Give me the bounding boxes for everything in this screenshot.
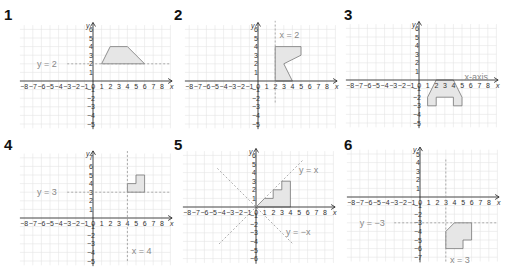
x-tick-label: 4 (126, 83, 130, 90)
x-tick-label: 2 (108, 220, 112, 227)
x-tick-label: 1 (426, 82, 430, 89)
y-tick-label: −1 (250, 212, 258, 219)
y-tick-label: −5 (87, 121, 95, 128)
x-tick-label: 8 (160, 220, 164, 227)
x-tick-label: 7 (478, 199, 482, 206)
y-tick-label: 6 (89, 163, 93, 170)
x-tick-label: −7 (194, 83, 202, 90)
y-tick-label: −2 (87, 232, 95, 239)
x-tick-label: −2 (398, 82, 406, 89)
x-axis-label: x (334, 83, 339, 90)
mirror-line-label: y = x (299, 165, 319, 175)
y-tick-label: −2 (413, 94, 421, 101)
x-tick-label: 7 (151, 220, 155, 227)
x-tick-label: 8 (323, 209, 327, 216)
x-tick-label: −8 (185, 83, 193, 90)
y-tick-label: 1 (89, 206, 93, 213)
y-tick-label: −2 (252, 95, 260, 102)
coordinate-graph-1: 1xy−8−7−6−5−4−3−2−1012345678−5−4−3−2−112… (4, 6, 174, 129)
x-tick-label: 2 (108, 83, 112, 90)
y-tick-label: 4 (254, 43, 258, 50)
y-tick-label: −5 (252, 121, 260, 128)
x-tick-label: −6 (363, 82, 371, 89)
x-tick-label: 8 (487, 199, 491, 206)
y-tick-label: −4 (252, 112, 260, 119)
x-tick-label: 3 (280, 209, 284, 216)
y-tick-label: −2 (87, 95, 95, 102)
x-tick-label: 7 (151, 83, 155, 90)
x-tick-label: −6 (202, 83, 210, 90)
x-tick-label: −7 (29, 83, 37, 90)
shape (127, 175, 144, 192)
x-tick-label: 7 (477, 82, 481, 89)
mirror-line-label: x-axis (465, 72, 489, 82)
x-tick-label: −7 (192, 209, 200, 216)
x-tick-label: 4 (291, 83, 295, 90)
graph-number: 5 (174, 136, 182, 153)
y-tick-label: −1 (252, 86, 260, 93)
y-tick-label: 3 (416, 168, 420, 175)
mirror-line-label: y = 2 (37, 59, 57, 69)
x-tick-label: 3 (443, 82, 447, 89)
y-tick-label: 6 (254, 26, 258, 33)
x-tick-label: 4 (452, 82, 456, 89)
y-tick-label: 1 (252, 195, 256, 202)
x-tick-label: 8 (160, 83, 164, 90)
x-tick-label: −5 (46, 83, 54, 90)
x-tick-label: −5 (211, 83, 219, 90)
y-tick-label: 1 (415, 68, 419, 75)
x-tick-label: 3 (282, 83, 286, 90)
x-tick-label: −6 (200, 209, 208, 216)
x-axis-label: x (169, 220, 174, 227)
x-tick-label: −4 (55, 220, 63, 227)
y-tick-label: −3 (250, 229, 258, 236)
x-tick-label: −4 (381, 82, 389, 89)
mirror-line-label: y = −x (286, 227, 311, 237)
x-tick-label: −6 (364, 199, 372, 206)
x-tick-label: 4 (453, 199, 457, 206)
x-axis-label: x (332, 209, 337, 216)
x-tick-label: 6 (306, 209, 310, 216)
x-tick-label: −6 (37, 83, 45, 90)
graph-number: 2 (174, 6, 182, 23)
y-tick-label: 5 (89, 35, 93, 42)
y-tick-label: 4 (416, 159, 420, 166)
y-tick-label: −1 (87, 86, 95, 93)
y-tick-label: 3 (89, 52, 93, 59)
graph-number: 4 (4, 136, 13, 153)
x-tick-label: −5 (209, 209, 217, 216)
x-tick-label: 2 (271, 209, 275, 216)
x-tick-label: −6 (37, 220, 45, 227)
y-tick-label: −4 (250, 238, 258, 245)
y-tick-label: 5 (252, 161, 256, 168)
y-tick-label: −6 (250, 255, 258, 262)
x-tick-label: −8 (346, 82, 354, 89)
x-tick-label: 3 (117, 83, 121, 90)
x-tick-label: −3 (228, 83, 236, 90)
x-tick-label: −2 (235, 209, 243, 216)
x-tick-label: −5 (372, 82, 380, 89)
x-tick-label: −2 (72, 83, 80, 90)
x-tick-label: 4 (289, 209, 293, 216)
x-tick-label: 3 (117, 220, 121, 227)
x-tick-label: 6 (143, 220, 147, 227)
x-tick-label: −3 (226, 209, 234, 216)
x-tick-label: 1 (265, 83, 269, 90)
x-tick-label: −7 (356, 199, 364, 206)
mirror-line-label: x = 2 (280, 30, 300, 40)
x-tick-label: −8 (20, 220, 28, 227)
coordinate-graph-6: 6xy−8−7−6−5−4−3−2−1012345678−7−6−5−4−3−2… (344, 136, 501, 265)
x-tick-label: 6 (469, 82, 473, 89)
x-tick-label: −3 (63, 83, 71, 90)
y-tick-label: 2 (89, 197, 93, 204)
y-tick-label: −7 (414, 254, 422, 261)
y-tick-label: −5 (414, 237, 422, 244)
x-tick-label: −3 (63, 220, 71, 227)
y-tick-label: 2 (416, 176, 420, 183)
x-tick-label: 7 (316, 83, 320, 90)
mirror-line-label: x = 3 (450, 255, 470, 265)
y-tick-label: −2 (250, 221, 258, 228)
x-tick-label: 5 (460, 82, 464, 89)
x-tick-label: −8 (347, 199, 355, 206)
y-tick-label: 6 (89, 26, 93, 33)
